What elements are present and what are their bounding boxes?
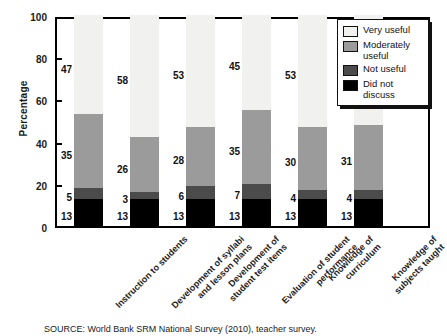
bar-value-label: 6: [178, 191, 184, 202]
bar-group: 1373545: [242, 19, 271, 226]
y-tick-mark-80: [55, 58, 62, 60]
bar-value-label: 53: [173, 69, 184, 80]
bar-value-label: 31: [341, 156, 352, 167]
legend-item-did-not-discuss: Did not discuss: [343, 79, 424, 100]
bar-segment: [130, 15, 159, 137]
bar-segment: [354, 199, 383, 226]
bar-segment: [74, 188, 103, 199]
bar-segment: [242, 15, 271, 110]
legend-swatch-did-not-discuss: [343, 80, 358, 91]
y-tick-label-20: 20: [3, 180, 55, 191]
bar-value-label: 13: [173, 211, 184, 222]
bar-segment: [298, 199, 327, 226]
bar-segment: [186, 199, 215, 226]
legend-swatch-very-useful: [343, 26, 358, 37]
bar-value-label: 28: [173, 155, 184, 166]
bar-group: 1343053: [298, 19, 327, 226]
bar-value-label: 4: [290, 193, 296, 204]
legend-label-not-useful: Not useful: [363, 64, 406, 75]
legend-item-moderately-useful: Moderately useful: [343, 40, 424, 61]
legend-swatch-not-useful: [343, 65, 358, 76]
legend-label-did-not-discuss: Did not discuss: [363, 79, 424, 100]
bar-value-label: 13: [285, 211, 296, 222]
bar-value-label: 26: [117, 163, 128, 174]
bar-segment: [298, 15, 327, 127]
bar-value-label: 13: [61, 211, 72, 222]
bar-value-label: 45: [229, 61, 240, 72]
bar-segment: [130, 137, 159, 192]
y-tick-label-80: 80: [3, 54, 55, 65]
bar-segment: [74, 114, 103, 188]
bar-segment: [242, 110, 271, 184]
legend-swatch-moderately-useful: [343, 41, 358, 52]
bar-segment: [74, 199, 103, 226]
source-note: SOURCE: World Bank SRM National Survey (…: [44, 324, 317, 334]
bar-segment: [186, 127, 215, 186]
bar-group: 1353547: [74, 19, 103, 226]
legend-label-moderately-useful: Moderately useful: [363, 40, 424, 61]
bar-segment: [242, 184, 271, 199]
bar-value-label: 13: [229, 211, 240, 222]
bar-segment: [74, 15, 103, 114]
legend-label-very-useful: Very useful: [363, 25, 410, 36]
y-tick-label-60: 60: [3, 96, 55, 107]
bar-segment: [130, 199, 159, 226]
bar-value-label: 3: [122, 194, 128, 205]
bar-value-label: 30: [285, 157, 296, 168]
bar-value-label: 13: [341, 211, 352, 222]
bar-value-label: 13: [117, 211, 128, 222]
y-tick-label-100: 100: [3, 12, 55, 23]
bar-segment: [186, 186, 215, 199]
bar-segment: [354, 190, 383, 198]
bar-value-label: 4: [346, 193, 352, 204]
bar-group: 1362853: [186, 19, 215, 226]
bar-value-label: 5: [66, 192, 72, 203]
bar-value-label: 58: [117, 75, 128, 86]
x-axis-label: Knowledge ofsubjects taught: [384, 234, 447, 297]
bar-group: 1332658: [130, 19, 159, 226]
bar-value-label: 7: [234, 190, 240, 201]
bar-segment: [298, 127, 327, 190]
bar-value-label: 35: [229, 145, 240, 156]
y-tick-mark-60: [55, 100, 62, 102]
bar-value-label: 47: [61, 63, 72, 74]
legend-item-not-useful: Not useful: [343, 64, 424, 76]
bar-segment: [242, 199, 271, 226]
x-axis-labels: Instruction to studentsDevelopment of sy…: [0, 232, 441, 332]
bar-segment: [354, 125, 383, 190]
bar-segment: [130, 192, 159, 198]
bar-value-label: 53: [285, 69, 296, 80]
y-tick-mark-20: [55, 185, 62, 187]
legend-item-very-useful: Very useful: [343, 25, 424, 37]
bar-value-label: 35: [61, 150, 72, 161]
bar-segment: [298, 190, 327, 198]
y-tick-label-40: 40: [3, 138, 55, 149]
bar-segment: [186, 15, 215, 127]
y-tick-mark-40: [55, 143, 62, 145]
chart-legend: Very useful Moderately useful Not useful…: [337, 19, 429, 106]
